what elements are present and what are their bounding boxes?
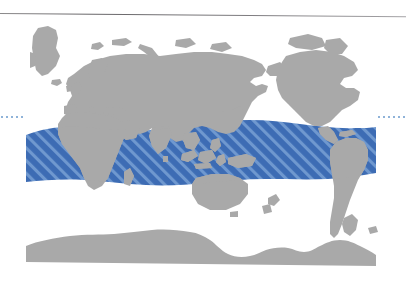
map-canvas [0,22,406,272]
ireland-landmass [66,85,72,92]
franz-josef-landmass [112,38,132,46]
tasmania-landmass [230,211,238,217]
south-georgia-landmass [368,226,378,234]
latitude-line-right-stub [378,116,405,118]
antarctica-landmass [26,230,376,266]
page-divider-rule [0,13,406,17]
canadian-arctic-islands-landmass [288,34,326,50]
antarctic-peninsula-landmass [342,214,358,236]
new-siberian-landmass [210,42,232,52]
sri-lanka-landmass-overlay [163,156,168,162]
figure-page [0,0,406,291]
world-distribution-map [0,22,406,272]
svalbard-landmass [91,42,104,50]
iceland-landmass [51,79,62,86]
korea-landmass [222,111,228,118]
north-america-landmass [276,50,360,126]
severnaya-zemlya-landmass [175,38,196,48]
latitude-line-left-stub [1,116,24,118]
greenland-landmass [32,26,60,76]
baffin-island-landmass [324,38,348,54]
greenland-west-tip [30,52,36,68]
new-zealand-south-landmass [262,204,272,214]
